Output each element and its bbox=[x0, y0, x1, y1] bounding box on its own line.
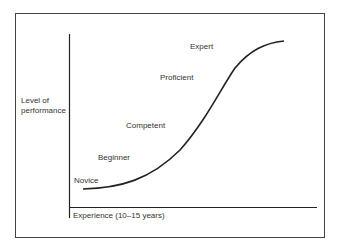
performance-curve-plot bbox=[0, 0, 340, 251]
stage-label-competent: Competent bbox=[126, 121, 165, 131]
stage-label-novice: Novice bbox=[74, 176, 98, 186]
x-axis-label: Experience (10–15 years) bbox=[73, 211, 165, 221]
stage-label-beginner: Beginner bbox=[98, 153, 130, 163]
y-axis-label: Level of performance bbox=[21, 96, 71, 116]
s-curve-line bbox=[83, 41, 284, 189]
y-axis-label-line-2: performance bbox=[21, 106, 71, 116]
y-axis-label-line-1: Level of bbox=[21, 96, 71, 106]
stage-label-proficient: Proficient bbox=[160, 73, 193, 83]
stage-label-expert: Expert bbox=[190, 42, 213, 52]
